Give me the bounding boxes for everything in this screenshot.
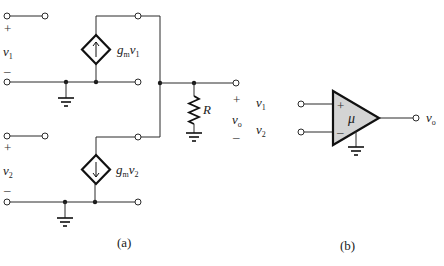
input1-label: v1 (3, 44, 13, 61)
source1-label: gmv1 (117, 42, 140, 59)
circuit-diagram: + v1 – gmv1 + (0, 0, 444, 266)
source2-output-terminal (135, 134, 141, 140)
input2-plus-sign: + (4, 140, 11, 155)
amp-input1-label: v1 (256, 95, 266, 112)
amp-input2-terminal (298, 129, 304, 135)
input1-plus-sign: + (4, 21, 11, 36)
ground-icon (58, 82, 74, 106)
amp-output-terminal (413, 115, 419, 121)
ground-icon (186, 133, 202, 141)
input1-minus-terminal (4, 79, 10, 85)
circuit-a: + v1 – gmv1 + (3, 13, 242, 250)
amp-gain-label: μ (347, 111, 355, 126)
input2-label: v2 (3, 163, 13, 180)
dependent-current-source-1 (82, 35, 110, 64)
input2-minus-terminal (4, 199, 10, 205)
output-label: vo (232, 112, 242, 129)
caption-a: (a) (117, 235, 131, 250)
amp-input1-terminal (298, 101, 304, 107)
output-minus-sign: – (232, 129, 240, 144)
caption-b: (b) (340, 238, 355, 253)
output-terminal (233, 80, 239, 86)
input2-minus-sign: – (3, 182, 11, 197)
source2-label: gmv2 (116, 162, 139, 179)
dependent-current-source-2 (82, 155, 110, 184)
amp-minus-sign: – (336, 124, 344, 139)
output-plus-sign: + (233, 92, 240, 107)
input2-top-open-terminal (42, 133, 48, 139)
resistor-R (189, 83, 199, 133)
stage1-rail-terminal (135, 79, 141, 85)
resistor-label: R (202, 102, 211, 117)
input2-plus-terminal (4, 133, 10, 139)
input1-plus-terminal (4, 13, 10, 19)
amp-plus-sign: + (337, 98, 344, 113)
ground-icon (57, 202, 73, 226)
input1-top-open-terminal (42, 13, 48, 19)
amp-input2-label: v2 (256, 122, 266, 139)
circuit-b: v1 v2 + – μ vo (b) (256, 91, 436, 253)
input1-minus-sign: – (3, 63, 11, 78)
source1-output-terminal (135, 13, 141, 19)
amp-output-label: vo (426, 110, 436, 127)
stage2-rail-terminal (135, 199, 141, 205)
